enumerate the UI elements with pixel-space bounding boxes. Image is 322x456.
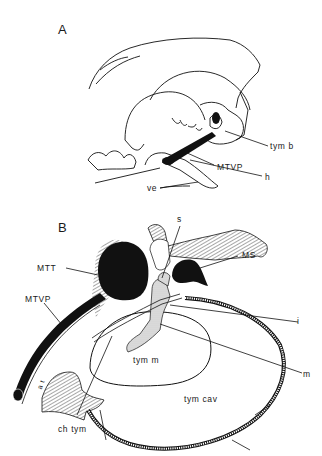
ms-muscle bbox=[172, 260, 208, 286]
label-mtt: MTT bbox=[37, 263, 56, 273]
anatomical-drawing bbox=[0, 0, 322, 456]
label-ve: ve bbox=[147, 183, 157, 193]
label-ms: MS bbox=[242, 250, 256, 260]
label-mtvp-a: MTVP bbox=[217, 162, 243, 172]
label-h: h bbox=[265, 172, 270, 182]
label-tym-b: tym b bbox=[270, 141, 294, 151]
label-s: s bbox=[177, 214, 182, 224]
label-tym-m: tym m bbox=[133, 355, 159, 365]
label-mtvp-b: MTVP bbox=[25, 294, 51, 304]
tym-b-dark-mark bbox=[212, 112, 220, 124]
label-tym-cav: tym cav bbox=[184, 394, 217, 404]
label-m: m bbox=[303, 369, 311, 379]
label-ch-tym: ch tym bbox=[58, 424, 87, 434]
label-i: i bbox=[297, 316, 300, 326]
mtt-muscle bbox=[98, 242, 148, 301]
panel-b-label: B bbox=[58, 220, 67, 235]
stapes bbox=[150, 239, 170, 270]
